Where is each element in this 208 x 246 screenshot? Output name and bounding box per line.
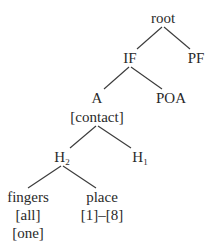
- feature-one: [one]: [12, 225, 44, 241]
- node-root: root: [151, 10, 175, 26]
- edge-h2-fingers: [28, 166, 61, 188]
- feature-range: [1]–[8]: [81, 207, 123, 223]
- edge-if-a: [104, 67, 129, 89]
- edge-root-pf: [164, 27, 190, 49]
- node-poa: POA: [156, 90, 186, 106]
- edge-contact-h1: [98, 126, 131, 148]
- node-h2-subscript: 2: [65, 157, 70, 167]
- node-h1-subscript: 1: [143, 157, 148, 167]
- node-h2-label: H: [54, 149, 65, 165]
- edge-root-if: [137, 27, 162, 49]
- feature-all: [all]: [16, 207, 41, 223]
- node-fingers: fingers: [7, 189, 49, 205]
- node-place: place: [86, 189, 118, 205]
- node-h2: H2: [54, 149, 69, 165]
- edge-contact-h2: [70, 126, 96, 148]
- node-h1: H1: [132, 149, 147, 165]
- feature-contact: [contact]: [70, 109, 123, 125]
- node-a: A: [92, 90, 103, 106]
- edge-h2-place: [63, 166, 96, 188]
- node-pf: PF: [188, 50, 205, 66]
- node-h1-label: H: [132, 149, 143, 165]
- edge-if-poa: [131, 67, 162, 89]
- node-if: IF: [123, 50, 136, 66]
